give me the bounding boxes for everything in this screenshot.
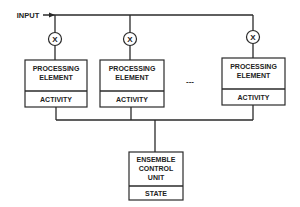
multiplier-2: X	[124, 33, 137, 46]
multiplier-symbol: X	[127, 35, 133, 44]
multiplier-symbol: X	[250, 33, 256, 42]
processing-element-1: PROCESSING ELEMENT ACTIVITY	[25, 60, 87, 107]
pe-title-line2: ELEMENT	[39, 74, 73, 81]
pe-activity-label: ACTIVITY	[238, 94, 270, 101]
ellipsis: ---	[186, 77, 194, 86]
multiplier-1: X	[49, 33, 62, 46]
processing-element-3: PROCESSING ELEMENT ACTIVITY	[222, 58, 285, 105]
pe-activity-label: ACTIVITY	[40, 96, 72, 103]
pe-activity-label: ACTIVITY	[116, 96, 148, 103]
pe-title-line1: PROCESSING	[109, 65, 156, 72]
pe-title-line2: ELEMENT	[237, 72, 271, 79]
ensemble-control-unit: ENSEMBLE CONTROL UNIT STATE	[129, 152, 183, 200]
ensemble-diagram: INPUT X X X PROCESSING ELEMENT ACTIVITY …	[0, 0, 300, 207]
cu-state-label: STATE	[145, 190, 167, 197]
processing-element-2: PROCESSING ELEMENT ACTIVITY	[100, 60, 164, 107]
pe-title-line1: PROCESSING	[33, 65, 80, 72]
cu-title-line3: UNIT	[148, 174, 165, 181]
cu-title-line1: ENSEMBLE	[137, 156, 176, 163]
multiplier-symbol: X	[52, 35, 58, 44]
input-label: INPUT	[17, 11, 40, 20]
pe-title-line2: ELEMENT	[115, 74, 149, 81]
cu-title-line2: CONTROL	[139, 165, 174, 172]
multiplier-3: X	[247, 31, 260, 44]
pe-title-line1: PROCESSING	[230, 63, 277, 70]
input-arrow-icon	[49, 13, 55, 18]
